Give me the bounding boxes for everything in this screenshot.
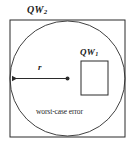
- figure-container: QW2 QW1 r worst-case error: [0, 0, 132, 147]
- figure-drawing: [0, 0, 132, 147]
- outer-square-label-subscript: 2: [44, 8, 48, 15]
- worst-case-error-caption: worst-case error: [36, 108, 83, 116]
- radius-label: r: [38, 63, 42, 72]
- center-dot: [66, 77, 70, 81]
- inner-square: [81, 61, 108, 95]
- inner-square-label: QW1: [80, 48, 98, 57]
- inner-square-label-subscript: 1: [95, 51, 98, 57]
- outer-square-label-base: QW: [27, 4, 44, 15]
- outer-square-label: QW2: [27, 5, 47, 16]
- inner-square-label-base: QW: [80, 47, 95, 57]
